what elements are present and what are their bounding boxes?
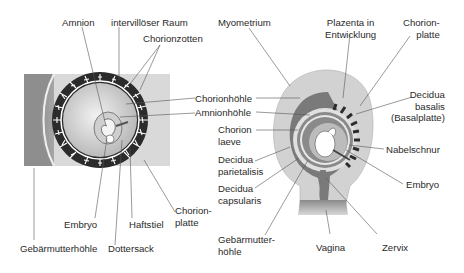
label-chorionplatte-right: Chorion- platte <box>403 17 440 40</box>
label-gebaermutterhoehle-left: Gebärmutterhöhle <box>20 243 97 255</box>
label-dottersack: Dottersack <box>108 243 154 255</box>
label-chorion-laeve: Chorion laeve <box>218 124 252 147</box>
embryo-shape-right <box>315 131 335 157</box>
label-decidua-parietalis: Decidua parietalisis <box>218 154 263 177</box>
label-decidua-capsularis: Decidua capsularis <box>218 183 261 206</box>
label-intervilloeser-raum: intervillöser Raum <box>111 17 188 29</box>
left-uterus-section <box>24 72 170 168</box>
right-uterus-section <box>273 70 373 215</box>
label-myometrium: Myometrium <box>218 17 271 29</box>
label-plazenta-in-entwicklung: Plazenta in Entwicklung <box>325 17 376 40</box>
label-chorionplatte-left: Chorion- platte <box>175 205 212 228</box>
label-nabelschnur: Nabelschnur <box>386 144 440 156</box>
label-chorionhoehle: Chorionhöhle <box>195 93 252 105</box>
label-amnion: Amnion <box>62 17 95 29</box>
diagram-stage: Amnion intervillöser Raum Chorionzotten … <box>0 0 464 273</box>
label-haftstiel: Haftstiel <box>129 219 164 231</box>
label-decidua-basalis: Decidua basalis (Basalplatte) <box>391 89 445 124</box>
label-gebaermutterhoehle-right: Gebärmutter- höhle <box>218 234 275 257</box>
label-chorionzotten: Chorionzotten <box>143 33 203 45</box>
vagina-region <box>298 200 348 215</box>
label-vagina: Vagina <box>316 242 345 254</box>
label-embryo-left: Embryo <box>64 219 97 231</box>
label-amnionhoehle: Amnionhöhle <box>195 107 251 119</box>
dottersack-shape <box>106 135 114 143</box>
label-embryo-right: Embryo <box>406 179 439 191</box>
label-zervix: Zervix <box>382 242 408 254</box>
